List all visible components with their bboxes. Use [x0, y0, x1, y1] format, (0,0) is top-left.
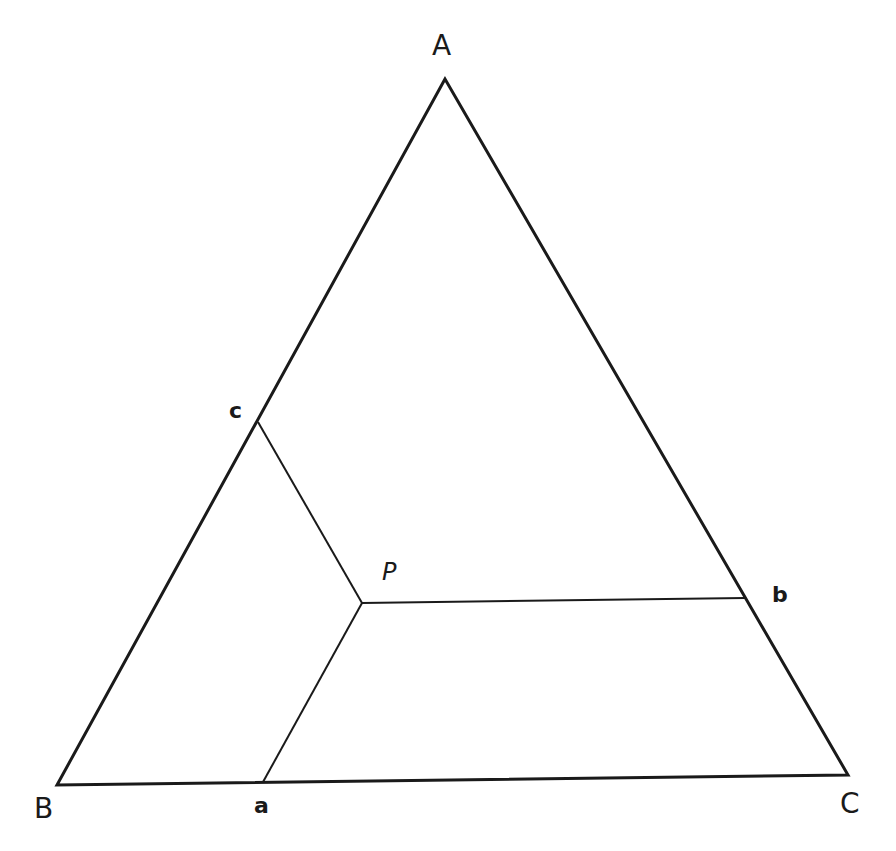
- triangle-abc: [57, 79, 848, 785]
- segment-p-a: [263, 603, 362, 782]
- vertex-label-a: A: [432, 32, 451, 60]
- segment-p-b: [362, 598, 745, 603]
- point-label-p: P: [382, 560, 396, 584]
- vertex-label-c: C: [840, 790, 860, 818]
- point-label-b: b: [772, 584, 788, 606]
- point-label-a: a: [254, 795, 269, 817]
- ternary-diagram: [0, 0, 896, 851]
- point-label-c: c: [229, 400, 242, 422]
- segment-p-c: [258, 422, 362, 603]
- vertex-label-b: B: [34, 795, 53, 823]
